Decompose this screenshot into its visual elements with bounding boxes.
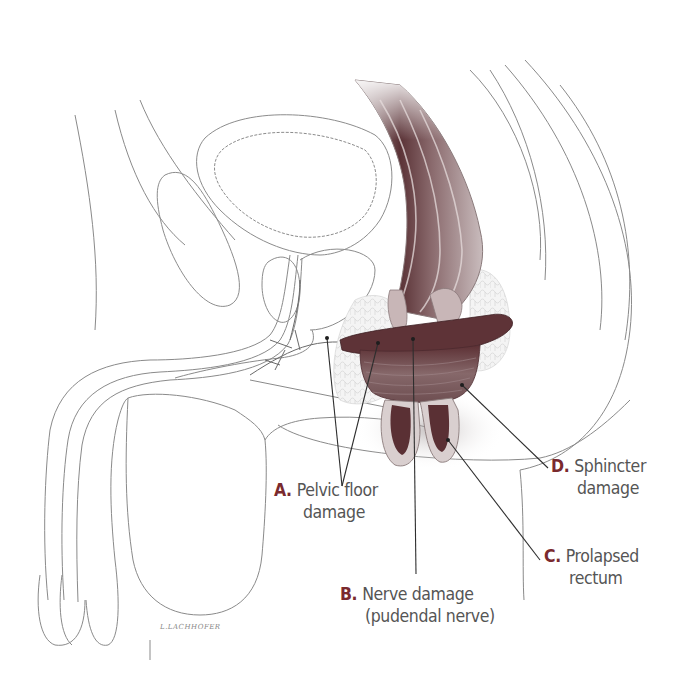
pubic-bone [157,172,375,330]
body-outline [75,60,632,470]
label-line2: damage [551,477,646,499]
label-line2: rectum [544,567,639,589]
label-b-nerve-damage: B.Nerve damage (pudendal nerve) [340,583,495,627]
label-a-pelvic-floor-damage: A.Pelvic floor damage [274,479,378,523]
artist-signature: L.LACHHOFER [160,623,221,631]
penis-urethra [38,255,313,645]
label-line2: (pudendal nerve) [340,605,495,627]
label-line1: Prolapsed [566,546,639,566]
label-line1: Nerve damage [362,584,473,604]
leader-line-c [448,440,540,560]
label-line1: Pelvic floor [297,480,378,500]
label-d-sphincter-damage: D.Sphincter damage [551,455,646,499]
label-letter: D. [551,456,569,476]
label-line1: Sphincter [574,456,646,476]
label-line2: damage [274,501,378,523]
label-c-prolapsed-rectum: C.Prolapsed rectum [544,545,639,589]
bladder [197,115,392,255]
label-letter: A. [274,480,292,500]
label-letter: B. [340,584,357,604]
label-letter: C. [544,546,561,566]
